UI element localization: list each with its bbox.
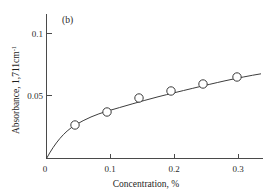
x-tick-label-0.2: 0.2 [168,164,179,174]
data-point [71,121,79,129]
y-tick-label-0: 0 [43,164,48,174]
y-axis-title: Absorbance, 1,711cm-1 [10,46,22,134]
x-tick-label-0.1: 0.1 [104,164,115,174]
x-tick-marks [111,154,239,159]
data-markers [71,73,241,129]
x-axis-title: Concentration, % [113,179,180,189]
y-axis-title-exponent: -1 [10,46,17,51]
y-tick-label-0.05: 0.05 [27,91,43,101]
data-point [135,94,143,102]
panel-label: (b) [62,15,73,26]
y-axis-title-group: Absorbance, 1,711cm-1 [10,46,22,134]
data-point [167,87,175,95]
y-tick-label-0.1: 0.1 [32,29,43,39]
fit-curve [47,74,262,159]
chart-canvas: 0.1 0.05 0 0.1 0.2 0.3 Concentration, % … [0,0,271,196]
data-point [103,108,111,116]
data-point [199,80,207,88]
figure-panel: 0.1 0.05 0 0.1 0.2 0.3 Concentration, % … [0,0,271,196]
axes-group [47,14,264,159]
y-tick-marks [47,34,52,96]
y-axis-title-text: Absorbance, 1,711cm [11,51,21,134]
data-point [233,73,241,81]
x-tick-label-0.3: 0.3 [232,164,244,174]
